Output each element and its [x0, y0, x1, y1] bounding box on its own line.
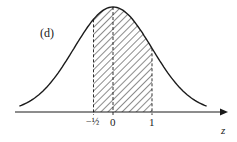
tick-label-zero: 0 [110, 117, 116, 128]
hatched-area [94, 7, 153, 112]
axis-arrow-icon [220, 109, 228, 116]
tick-label-one: 1 [149, 117, 155, 128]
axis-label-z: z [221, 125, 225, 136]
panel-label: (d) [40, 27, 54, 39]
tick-label-neg-half: −½ [86, 117, 99, 127]
normal-curve-diagram [0, 0, 237, 142]
